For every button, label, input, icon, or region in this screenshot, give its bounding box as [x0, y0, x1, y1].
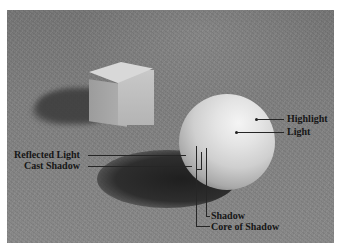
sphere	[179, 94, 275, 190]
label-shadow: Shadow	[211, 211, 245, 221]
core-shadow-leader-horizontal	[196, 226, 210, 227]
label-cast-shadow: Cast Shadow	[24, 161, 80, 171]
surface-texture	[7, 10, 334, 243]
label-core-of-shadow: Core of Shadow	[211, 222, 279, 232]
cast-shadow-leader-line	[88, 166, 192, 167]
core-shadow-leader-vertical-2	[201, 152, 202, 170]
label-reflected-light: Reflected Light	[14, 150, 80, 160]
shadow-leader-vertical	[206, 148, 207, 217]
shading-study-photo	[7, 10, 334, 243]
highlight-leader-line	[257, 119, 284, 120]
core-shadow-bracket	[196, 169, 202, 170]
label-highlight: Highlight	[287, 114, 328, 124]
label-light: Light	[287, 127, 310, 137]
shadow-leader-horizontal	[206, 216, 210, 217]
reflected-light-leader-line	[88, 155, 186, 156]
core-shadow-leader-vertical	[196, 146, 197, 227]
light-leader-line	[237, 132, 284, 133]
